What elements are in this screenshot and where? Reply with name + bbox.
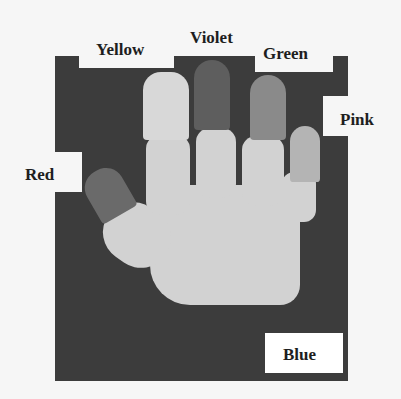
violet-fingertip <box>194 60 230 130</box>
label-violet: Violet <box>190 29 233 46</box>
glove-index <box>146 135 190 215</box>
pink-fingertip <box>290 126 320 182</box>
label-blue: Blue <box>283 346 316 363</box>
label-pink: Pink <box>340 111 374 128</box>
label-green: Green <box>263 45 308 62</box>
glove-middle <box>196 128 236 198</box>
label-notch-red <box>50 152 82 192</box>
green-fingertip <box>250 75 286 140</box>
label-red: Red <box>25 166 54 183</box>
glove-ring <box>242 136 284 206</box>
yellow-fingertip <box>143 72 189 140</box>
label-yellow: Yellow <box>96 41 144 58</box>
